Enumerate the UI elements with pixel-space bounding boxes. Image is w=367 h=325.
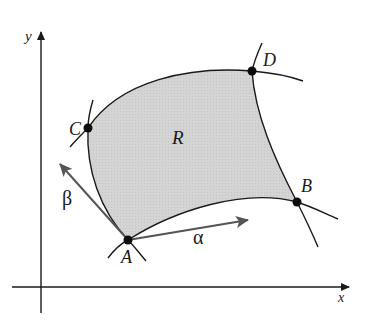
- point-d-label: D: [262, 50, 276, 70]
- point-b: [293, 198, 302, 207]
- region-label: R: [171, 127, 184, 148]
- point-c-label: C: [69, 119, 82, 139]
- point-c: [84, 124, 93, 133]
- region-diagram: y x R A B C D α β: [0, 0, 367, 325]
- point-a-label: A: [120, 247, 133, 267]
- point-a: [124, 236, 133, 245]
- x-axis-label: x: [337, 290, 345, 305]
- vector-alpha-label: α: [193, 226, 204, 248]
- region-r-fill: [88, 70, 297, 240]
- point-b-label: B: [301, 176, 312, 196]
- vector-beta-label: β: [62, 187, 72, 210]
- diagram-canvas: y x R A B C D α β: [0, 0, 367, 325]
- point-d: [248, 67, 257, 76]
- y-axis-label: y: [23, 28, 32, 44]
